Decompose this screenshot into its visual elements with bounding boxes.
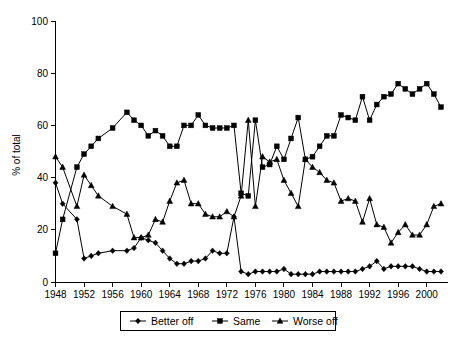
- marker-square: [289, 136, 294, 141]
- marker-square: [410, 92, 415, 97]
- marker-square: [360, 94, 365, 99]
- marker-square: [332, 133, 337, 138]
- x-tick-label: 1992: [358, 289, 381, 300]
- marker-square: [182, 123, 187, 128]
- x-tick-label: 2000: [416, 289, 439, 300]
- marker-square: [339, 113, 344, 118]
- x-tick-label: 1972: [216, 289, 239, 300]
- marker-square: [246, 193, 251, 198]
- chart-legend: Better offSameWorse off: [121, 312, 338, 331]
- y-tick-label: 0: [42, 277, 48, 288]
- legend-label-0: Better off: [151, 315, 193, 327]
- y-tick-label: 40: [37, 172, 49, 183]
- marker-square: [424, 81, 429, 86]
- marker-square: [389, 92, 394, 97]
- y-tick-label: 60: [37, 120, 49, 131]
- marker-square: [353, 118, 358, 123]
- x-tick-label: 1984: [301, 289, 324, 300]
- marker-square: [396, 81, 401, 86]
- marker-square: [282, 157, 287, 162]
- marker-square: [146, 133, 151, 138]
- marker-square: [367, 118, 372, 123]
- y-axis-title: % of total: [11, 134, 22, 176]
- marker-square: [296, 115, 301, 120]
- marker-square: [110, 126, 115, 131]
- x-tick-label: 1952: [73, 289, 96, 300]
- marker-square: [167, 144, 172, 149]
- x-tick-label: 1948: [44, 289, 67, 300]
- marker-square: [160, 133, 165, 138]
- x-tick-label: 1976: [244, 289, 267, 300]
- marker-square: [224, 126, 229, 131]
- marker-square: [439, 105, 444, 110]
- marker-square: [60, 217, 65, 222]
- chart-container: 020406080100 194819521956196019641968197…: [0, 0, 454, 341]
- marker-square: [253, 118, 258, 123]
- marker-square: [174, 144, 179, 149]
- x-tick-label: 1964: [159, 289, 182, 300]
- y-tick-label: 80: [37, 68, 49, 79]
- marker-square: [403, 86, 408, 91]
- marker-square: [317, 144, 322, 149]
- y-tick-label: 20: [37, 224, 49, 235]
- marker-square: [324, 133, 329, 138]
- marker-square: [210, 126, 215, 131]
- y-tick-label: 100: [31, 16, 48, 27]
- marker-square: [75, 165, 80, 170]
- marker-square: [124, 110, 129, 115]
- marker-square: [203, 123, 208, 128]
- marker-square: [417, 86, 422, 91]
- marker-square: [310, 154, 315, 159]
- marker-square: [232, 123, 237, 128]
- marker-square: [196, 113, 201, 118]
- marker-square: [96, 136, 101, 141]
- x-tick-label: 1956: [101, 289, 124, 300]
- x-tick-label: 1960: [130, 289, 153, 300]
- legend-items: Better offSameWorse off: [130, 315, 338, 327]
- legend-label-1: Same: [233, 315, 261, 327]
- marker-square: [217, 126, 222, 131]
- marker-square: [346, 115, 351, 120]
- legend-label-2: Worse off: [293, 315, 338, 327]
- marker-square: [89, 144, 94, 149]
- x-tick-label: 1968: [187, 289, 210, 300]
- x-tick-label: 1988: [330, 289, 353, 300]
- marker-square: [132, 118, 137, 123]
- x-tick-label: 1996: [387, 289, 410, 300]
- marker-square: [53, 251, 58, 256]
- marker-square: [260, 165, 265, 170]
- marker-square: [153, 128, 158, 133]
- line-chart: 020406080100 194819521956196019641968197…: [0, 0, 454, 341]
- x-tick-label: 1980: [273, 289, 296, 300]
- legend-marker-square: [218, 319, 223, 324]
- marker-square: [189, 123, 194, 128]
- marker-square: [381, 94, 386, 99]
- marker-square: [431, 92, 436, 97]
- marker-square: [139, 123, 144, 128]
- marker-square: [274, 144, 279, 149]
- marker-square: [374, 102, 379, 107]
- marker-square: [82, 152, 87, 157]
